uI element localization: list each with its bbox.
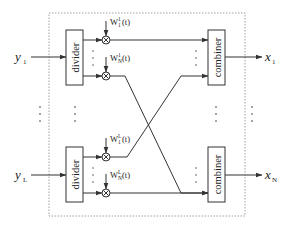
ellipsis-combiner-top	[195, 50, 196, 65]
svg-text:y: y	[13, 49, 21, 64]
ellipsis-combiners	[215, 106, 217, 122]
svg-text:combiner: combiner	[212, 154, 223, 194]
svg-text:L: L	[23, 176, 27, 184]
divider-bottom: divider	[66, 147, 83, 202]
svg-text:1: 1	[23, 58, 27, 66]
divider-top: divider	[66, 30, 83, 85]
svg-text:N: N	[272, 176, 277, 184]
output-xN: x N	[264, 167, 277, 184]
ellipsis-divider-bottom	[92, 167, 93, 182]
svg-text:(t): (t)	[122, 17, 130, 27]
ellipsis-dividers	[74, 106, 76, 122]
output-x1: x 1	[264, 49, 276, 66]
combiner-top: combiner	[208, 30, 225, 85]
multiplier-wN1	[102, 72, 110, 80]
input-y1: y 1	[13, 49, 27, 66]
weight-label-w11: W 1 1 (t)	[110, 16, 130, 28]
svg-text:W: W	[110, 170, 118, 180]
ellipsis-outputs	[251, 106, 253, 122]
svg-text:W: W	[110, 134, 118, 144]
svg-text:W: W	[110, 17, 118, 27]
multiplier-wNL	[102, 189, 110, 197]
multiplier-w11	[102, 36, 110, 44]
ellipsis-divider-top	[92, 50, 93, 65]
weight-label-w1L: W L 1 (t)	[110, 133, 130, 145]
svg-text:divider: divider	[70, 42, 81, 72]
svg-text:x: x	[264, 49, 271, 64]
svg-text:(t): (t)	[122, 170, 130, 180]
weight-label-wNL: W L N (t)	[110, 169, 130, 181]
svg-text:combiner: combiner	[212, 37, 223, 77]
ellipsis-inputs	[39, 106, 41, 122]
svg-text:(t): (t)	[122, 134, 130, 144]
svg-text:W: W	[110, 53, 118, 63]
svg-text:y: y	[13, 167, 21, 182]
beamforming-network-diagram: y 1 divider W 1 1 (t) W 1 N (t) y L	[0, 0, 290, 232]
svg-text:1: 1	[118, 139, 121, 145]
link-w1L-combiner1	[110, 76, 208, 157]
svg-text:1: 1	[272, 58, 276, 66]
svg-text:divider: divider	[70, 159, 81, 189]
weight-label-wN1: W 1 N (t)	[110, 52, 130, 64]
combiner-bottom: combiner	[208, 147, 225, 202]
svg-text:1: 1	[118, 22, 121, 28]
input-yL: y L	[13, 167, 27, 184]
svg-text:x: x	[264, 167, 271, 182]
multiplier-w1L	[102, 153, 110, 161]
ellipsis-combiner-bottom	[195, 167, 196, 182]
svg-text:(t): (t)	[122, 53, 130, 63]
